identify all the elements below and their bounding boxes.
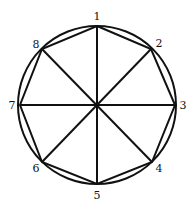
- vertex-label-4: 4: [156, 162, 163, 175]
- vertex-label-2: 2: [156, 37, 163, 50]
- octagon-diagram: 12345678: [0, 0, 196, 210]
- vertex-label-5: 5: [94, 189, 101, 202]
- vertex-label-8: 8: [33, 38, 40, 51]
- vertex-label-7: 7: [9, 99, 16, 112]
- vertex-label-6: 6: [33, 162, 40, 175]
- vertex-label-3: 3: [180, 99, 187, 112]
- vertex-label-1: 1: [94, 10, 101, 23]
